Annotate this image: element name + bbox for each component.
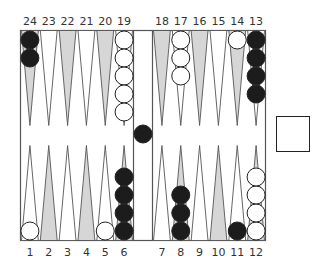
white-checker[interactable] bbox=[247, 168, 265, 186]
black-checker[interactable] bbox=[172, 222, 190, 240]
white-checker[interactable] bbox=[247, 222, 265, 240]
black-checker[interactable] bbox=[247, 49, 265, 67]
white-checker[interactable] bbox=[115, 31, 133, 49]
white-checker[interactable] bbox=[228, 31, 246, 49]
white-checker[interactable] bbox=[21, 222, 39, 240]
white-checker[interactable] bbox=[172, 49, 190, 67]
black-checker[interactable] bbox=[21, 49, 39, 67]
point-label-24: 24 bbox=[23, 15, 37, 28]
point-label-18: 18 bbox=[155, 15, 169, 28]
black-checker[interactable] bbox=[228, 222, 246, 240]
point-label-4: 4 bbox=[83, 246, 90, 259]
point-label-21: 21 bbox=[79, 15, 93, 28]
white-checker[interactable] bbox=[172, 31, 190, 49]
white-checker[interactable] bbox=[115, 103, 133, 121]
point-label-13: 13 bbox=[249, 15, 263, 28]
point-label-19: 19 bbox=[117, 15, 131, 28]
doubling-cube[interactable] bbox=[276, 116, 310, 152]
white-checker[interactable] bbox=[172, 67, 190, 85]
point-label-10: 10 bbox=[211, 246, 225, 259]
point-label-12: 12 bbox=[249, 246, 263, 259]
black-checker[interactable] bbox=[172, 186, 190, 204]
point-label-2: 2 bbox=[45, 246, 52, 259]
point-label-20: 20 bbox=[98, 15, 112, 28]
black-checker[interactable] bbox=[115, 168, 133, 186]
point-label-3: 3 bbox=[64, 246, 71, 259]
white-checker[interactable] bbox=[115, 49, 133, 67]
point-label-15: 15 bbox=[211, 15, 225, 28]
point-label-6: 6 bbox=[121, 246, 128, 259]
black-checker[interactable] bbox=[247, 67, 265, 85]
white-checker[interactable] bbox=[247, 204, 265, 222]
point-label-1: 1 bbox=[26, 246, 33, 259]
black-checker[interactable] bbox=[115, 204, 133, 222]
white-checker[interactable] bbox=[115, 67, 133, 85]
black-checker[interactable] bbox=[115, 222, 133, 240]
point-label-11: 11 bbox=[230, 246, 244, 259]
white-checker[interactable] bbox=[247, 186, 265, 204]
point-label-17: 17 bbox=[174, 15, 188, 28]
bar-black-checker[interactable] bbox=[134, 125, 152, 143]
point-label-5: 5 bbox=[102, 246, 109, 259]
black-checker[interactable] bbox=[21, 31, 39, 49]
point-label-8: 8 bbox=[177, 246, 184, 259]
point-label-9: 9 bbox=[196, 246, 203, 259]
black-checker[interactable] bbox=[247, 85, 265, 103]
black-checker[interactable] bbox=[247, 31, 265, 49]
white-checker[interactable] bbox=[96, 222, 114, 240]
black-checker[interactable] bbox=[115, 186, 133, 204]
white-checker[interactable] bbox=[115, 85, 133, 103]
black-checker[interactable] bbox=[172, 204, 190, 222]
point-label-16: 16 bbox=[193, 15, 207, 28]
point-label-7: 7 bbox=[158, 246, 165, 259]
point-label-23: 23 bbox=[42, 15, 56, 28]
point-label-22: 22 bbox=[61, 15, 75, 28]
point-label-14: 14 bbox=[230, 15, 244, 28]
